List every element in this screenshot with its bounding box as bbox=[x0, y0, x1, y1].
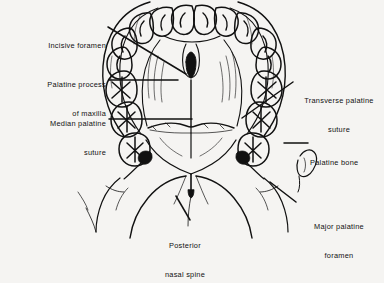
label-incisive-foramen-line1: Incisive foramen bbox=[10, 41, 106, 51]
label-major-palatine-foramen-line1: Major palatine bbox=[297, 222, 381, 232]
label-posterior-nasal-spine: Posterior nasal spine bbox=[152, 222, 218, 283]
leader-posterior-nasal-spine bbox=[176, 196, 190, 220]
label-transverse-palatine-suture-line1: Transverse palatine bbox=[296, 96, 382, 106]
label-median-palatine-suture-line2: suture bbox=[4, 148, 106, 158]
label-palatine-bone: Palatine bone bbox=[310, 139, 382, 177]
teeth-left bbox=[106, 5, 194, 166]
lower-left-margin bbox=[78, 192, 96, 232]
leader-major-palatine-foramen bbox=[270, 182, 296, 202]
teeth-right bbox=[194, 5, 282, 166]
label-palatine-bone-line1: Palatine bone bbox=[310, 158, 382, 168]
hard-palate bbox=[142, 36, 242, 126]
label-transverse-palatine-suture: Transverse palatine suture bbox=[296, 77, 382, 144]
label-posterior-nasal-spine-line1: Posterior bbox=[152, 241, 218, 251]
pterygoid-process-right bbox=[256, 178, 288, 232]
label-median-palatine-suture-line1: Median palatine bbox=[4, 119, 106, 129]
pterygoid-process-left bbox=[96, 178, 128, 232]
label-major-palatine-foramen-line2: foramen bbox=[297, 251, 381, 261]
label-palatine-process-line1: Palatine process bbox=[4, 80, 106, 90]
label-major-palatine-foramen: Major palatine foramen bbox=[297, 203, 381, 270]
label-transverse-palatine-suture-line2: suture bbox=[296, 125, 382, 135]
label-incisive-foramen: Incisive foramen bbox=[10, 22, 106, 60]
label-median-palatine-suture: Median palatine suture bbox=[4, 100, 106, 167]
label-posterior-nasal-spine-line2: nasal spine bbox=[152, 270, 218, 280]
